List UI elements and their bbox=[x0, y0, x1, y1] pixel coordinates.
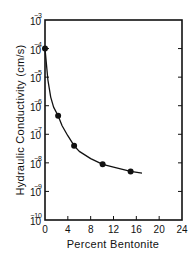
data-point-marker bbox=[55, 113, 61, 119]
x-tick-label: 0 bbox=[42, 224, 48, 235]
x-tick-label: 24 bbox=[176, 224, 188, 235]
y-tick-exponent: −4 bbox=[34, 41, 42, 48]
axes-box bbox=[45, 20, 182, 220]
x-tick-label: 16 bbox=[131, 224, 143, 235]
y-tick-exponent: −7 bbox=[34, 126, 42, 133]
x-axis-ticks: 04812162024 bbox=[42, 216, 188, 235]
y-tick-exponent: −10 bbox=[30, 212, 42, 219]
y-tick-exponent: −5 bbox=[34, 69, 42, 76]
data-point-marker bbox=[71, 143, 77, 149]
y-tick-exponent: −3 bbox=[34, 12, 42, 19]
y-axis-ticks: 10−310−410−510−610−710−810−910−10 bbox=[30, 12, 182, 227]
plot-frame bbox=[45, 20, 182, 220]
x-tick-label: 20 bbox=[154, 224, 166, 235]
x-tick-label: 12 bbox=[108, 224, 120, 235]
y-tick-exponent: −9 bbox=[34, 183, 42, 190]
data-point-marker bbox=[128, 168, 134, 174]
x-axis-label: Percent Bentonite bbox=[45, 238, 181, 250]
y-tick-exponent: −6 bbox=[34, 98, 42, 105]
chart-canvas: 04812162024 10−310−410−510−610−710−810−9… bbox=[0, 0, 195, 264]
data-point-marker bbox=[42, 46, 48, 52]
y-axis-label: Hydraulic Conductivity (cm/s) bbox=[14, 40, 26, 200]
x-tick-label: 4 bbox=[65, 224, 71, 235]
y-tick-exponent: −8 bbox=[34, 155, 42, 162]
data-point-marker bbox=[100, 161, 106, 167]
fitted-curve bbox=[45, 49, 142, 174]
x-tick-label: 8 bbox=[88, 224, 94, 235]
fit-line bbox=[45, 49, 142, 174]
